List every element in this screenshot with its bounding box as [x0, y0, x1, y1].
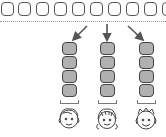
- children: [0, 0, 166, 137]
- sharing-diagram: [0, 0, 166, 137]
- boy-face-icon: [59, 109, 79, 128]
- boy-spiky-face-icon: [136, 108, 156, 129]
- girl-face-icon: [97, 109, 118, 129]
